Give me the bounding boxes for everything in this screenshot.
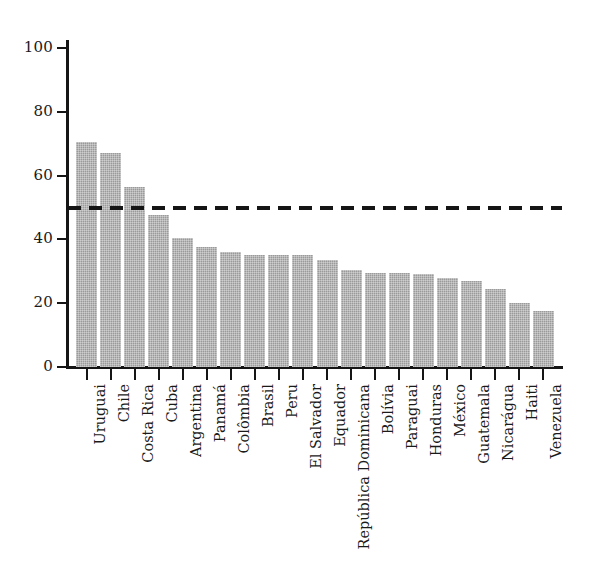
y-axis-tick xyxy=(57,111,68,113)
bar xyxy=(365,273,386,367)
x-axis-category-label: Guatemala xyxy=(477,384,492,464)
bar xyxy=(76,142,97,367)
y-axis-tick xyxy=(57,302,68,304)
x-axis-tick xyxy=(278,369,280,380)
bar xyxy=(413,274,434,367)
y-axis-tick-label: 40 xyxy=(34,231,54,246)
y-axis-tick-label: 80 xyxy=(34,104,54,119)
bar xyxy=(292,255,313,367)
bar xyxy=(509,303,530,367)
bar xyxy=(196,247,217,367)
x-axis-category-label-text: República Dominicana xyxy=(357,384,372,550)
x-axis-category-label-text: Equador xyxy=(333,384,348,447)
x-axis-category-label-text: Uruguai xyxy=(93,384,108,444)
x-axis-category-label: Brasil xyxy=(261,384,276,427)
x-axis-category-label: Bolívia xyxy=(381,384,396,434)
bar xyxy=(268,255,289,367)
x-axis-category-label: Paraguai xyxy=(405,384,420,449)
x-axis-tick xyxy=(374,369,376,380)
x-axis-category-label: República Dominicana xyxy=(357,384,372,550)
x-axis-category-label: Costa Rica xyxy=(141,384,156,463)
x-axis-tick xyxy=(86,369,88,380)
x-axis-tick xyxy=(230,369,232,380)
x-axis-category-label: Haiti xyxy=(525,384,540,420)
y-axis-tick-label: 60 xyxy=(34,168,54,183)
x-axis-category-label-text: México xyxy=(453,384,468,437)
bar xyxy=(389,273,410,367)
x-axis-tick xyxy=(158,369,160,380)
x-axis-category-label: Equador xyxy=(333,384,348,447)
x-axis-category-label-text: Honduras xyxy=(429,384,444,456)
x-axis-category-label-text: Venezuela xyxy=(549,384,564,458)
x-axis-category-label-text: Peru xyxy=(285,384,300,418)
bar xyxy=(533,311,554,367)
x-axis-category-label: Nicarágua xyxy=(501,384,516,461)
x-axis-category-label: Honduras xyxy=(429,384,444,456)
x-axis-category-label: Chile xyxy=(117,384,132,422)
threshold-reference-line xyxy=(68,206,562,210)
x-axis-category-label-text: Cuba xyxy=(165,384,180,422)
bar xyxy=(220,252,241,367)
y-axis-tick xyxy=(57,238,68,240)
plot-area: 020406080100 UruguaiChileCosta RicaCubaA… xyxy=(0,0,598,582)
bar xyxy=(341,270,362,367)
x-axis-category-label-text: Nicarágua xyxy=(501,384,516,461)
x-axis-tick xyxy=(254,369,256,380)
y-axis-tick xyxy=(57,47,68,49)
x-axis-tick xyxy=(134,369,136,380)
y-axis-tick xyxy=(57,366,68,368)
x-axis-tick xyxy=(470,369,472,380)
x-axis-tick xyxy=(518,369,520,380)
x-axis-category-label-text: Paraguai xyxy=(405,384,420,449)
bar xyxy=(172,238,193,367)
x-axis-category-label: Uruguai xyxy=(93,384,108,444)
x-axis-category-label-text: Panamá xyxy=(213,384,228,442)
x-axis-category-label-text: Chile xyxy=(117,384,132,422)
x-axis-category-label-text: Brasil xyxy=(261,384,276,427)
x-axis-category-label-text: Guatemala xyxy=(477,384,492,464)
x-axis-tick xyxy=(326,369,328,380)
bar xyxy=(437,278,458,367)
bar xyxy=(461,281,482,367)
x-axis-category-label-text: Argentina xyxy=(189,384,204,457)
x-axis-category-label: Colômbia xyxy=(237,384,252,454)
x-axis-tick xyxy=(446,369,448,380)
x-axis-tick xyxy=(422,369,424,380)
y-axis-tick xyxy=(57,175,68,177)
x-axis-category-label-text: Colômbia xyxy=(237,384,252,454)
y-axis-tick-label: 0 xyxy=(43,359,53,374)
x-axis-category-label-text: Haiti xyxy=(525,384,540,420)
x-axis-category-label: Argentina xyxy=(189,384,204,457)
x-axis-tick xyxy=(494,369,496,380)
bar xyxy=(485,289,506,367)
y-axis-tick-label: 20 xyxy=(34,295,54,310)
bar-chart: 020406080100 UruguaiChileCosta RicaCubaA… xyxy=(0,0,598,582)
x-axis-category-label: México xyxy=(453,384,468,437)
y-axis-line xyxy=(66,40,69,369)
x-axis-tick xyxy=(350,369,352,380)
x-axis-tick xyxy=(182,369,184,380)
x-axis-category-label: Cuba xyxy=(165,384,180,422)
bar xyxy=(244,255,265,367)
bar xyxy=(124,187,145,367)
x-axis-category-label-text: Costa Rica xyxy=(141,384,156,463)
x-axis-tick xyxy=(302,369,304,380)
x-axis-tick xyxy=(110,369,112,380)
bar xyxy=(100,153,121,367)
x-axis-tick xyxy=(206,369,208,380)
bar xyxy=(317,260,338,367)
x-axis-tick xyxy=(398,369,400,380)
x-axis-tick xyxy=(542,369,544,380)
x-axis-category-label: Panamá xyxy=(213,384,228,442)
bar xyxy=(148,215,169,367)
x-axis-category-label: Venezuela xyxy=(549,384,564,458)
x-axis-category-label: El Salvador xyxy=(309,384,324,469)
y-axis-tick-label: 100 xyxy=(24,40,53,55)
x-axis-category-label-text: El Salvador xyxy=(309,384,324,469)
x-axis-category-label-text: Bolívia xyxy=(381,384,396,434)
x-axis-category-label: Peru xyxy=(285,384,300,418)
